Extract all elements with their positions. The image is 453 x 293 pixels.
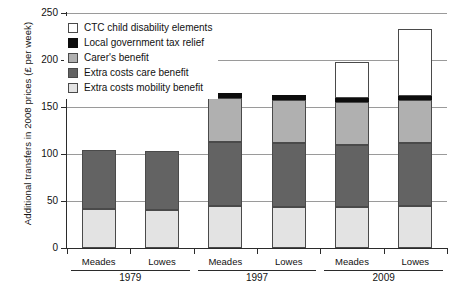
legend-item-taxrelief[interactable]: Local government tax relief bbox=[68, 35, 212, 50]
x-tick-mark bbox=[384, 248, 385, 254]
bar-segment-care[interactable] bbox=[335, 145, 369, 207]
gridline-250 bbox=[67, 13, 447, 14]
y-tick-mark-100 bbox=[61, 154, 66, 155]
bar-segment-carer[interactable] bbox=[208, 98, 242, 142]
bar-segment-mobility[interactable] bbox=[208, 206, 242, 248]
group-rule-2009 bbox=[324, 270, 443, 271]
group-rule-1997 bbox=[198, 270, 317, 271]
legend-label-carer: Carer's benefit bbox=[84, 52, 149, 63]
bar-segment-mobility[interactable] bbox=[82, 209, 116, 249]
x-tick-mark bbox=[67, 248, 68, 254]
legend-label-mobility: Extra costs mobility benefit bbox=[84, 82, 203, 93]
group-label-1979: 1979 bbox=[90, 272, 170, 283]
bar-segment-mobility[interactable] bbox=[272, 207, 306, 248]
x-axis-label-1997-lowes: Lowes bbox=[259, 256, 319, 267]
legend-item-care[interactable]: Extra costs care benefit bbox=[68, 65, 212, 80]
y-tick-label-200: 200 bbox=[28, 54, 58, 65]
bar-segment-mobility[interactable] bbox=[145, 210, 179, 249]
gridline-100 bbox=[67, 154, 447, 155]
y-tick-label-wrap-100: 100 bbox=[24, 148, 58, 160]
bar-segment-ctc[interactable] bbox=[398, 29, 432, 96]
bar-segment-mobility[interactable] bbox=[398, 206, 432, 248]
legend-swatch-taxrelief-icon bbox=[68, 38, 78, 48]
legend-item-carer[interactable]: Carer's benefit bbox=[68, 50, 212, 65]
legend-swatch-mobility-icon bbox=[68, 83, 78, 93]
x-axis-label-1997-meades: Meades bbox=[195, 256, 255, 267]
y-tick-label-100: 100 bbox=[28, 148, 58, 159]
gridline-150 bbox=[67, 107, 447, 108]
legend-swatch-carer-icon bbox=[68, 53, 78, 63]
bar-1979-meades[interactable] bbox=[82, 150, 116, 248]
bar-segment-carer[interactable] bbox=[272, 100, 306, 143]
bar-segment-mobility[interactable] bbox=[335, 207, 369, 248]
x-axis-label-1979-lowes: Lowes bbox=[132, 256, 192, 267]
y-tick-label-0: 0 bbox=[28, 242, 58, 253]
legend-label-care: Extra costs care benefit bbox=[84, 67, 189, 78]
x-axis-label-2009-lowes: Lowes bbox=[385, 256, 445, 267]
x-axis-label-1979-meades: Meades bbox=[69, 256, 129, 267]
y-tick-label-wrap-150: 150 bbox=[24, 101, 58, 113]
legend-swatch-care-icon bbox=[68, 68, 78, 78]
legend-item-ctc[interactable]: CTC child disability elements bbox=[68, 20, 212, 35]
x-tick-mark bbox=[194, 248, 195, 254]
y-tick-label-wrap-0: 0 bbox=[24, 242, 58, 254]
y-tick-label-250: 250 bbox=[28, 7, 58, 18]
bar-segment-carer[interactable] bbox=[335, 102, 369, 144]
y-tick-mark-50 bbox=[61, 201, 66, 202]
y-tick-label-150: 150 bbox=[28, 101, 58, 112]
bar-1997-meades[interactable] bbox=[208, 93, 242, 248]
y-tick-mark-0 bbox=[61, 248, 66, 249]
y-tick-label-wrap-50: 50 bbox=[24, 195, 58, 207]
group-label-1997: 1997 bbox=[217, 272, 297, 283]
gridline-50 bbox=[67, 201, 447, 202]
legend-item-mobility[interactable]: Extra costs mobility benefit bbox=[68, 80, 212, 95]
group-rule-1979 bbox=[71, 270, 190, 271]
x-tick-mark bbox=[130, 248, 131, 254]
bar-1979-lowes[interactable] bbox=[145, 151, 179, 248]
legend: CTC child disability elementsLocal gover… bbox=[64, 16, 218, 99]
legend-swatch-ctc-icon bbox=[68, 23, 78, 33]
bar-1997-lowes[interactable] bbox=[272, 95, 306, 248]
y-axis-title: Additional transfers in 2008 prices (£ p… bbox=[22, 4, 33, 244]
x-tick-mark bbox=[257, 248, 258, 254]
legend-label-ctc: CTC child disability elements bbox=[84, 22, 212, 33]
bar-segment-ctc[interactable] bbox=[335, 62, 369, 98]
y-tick-label-50: 50 bbox=[28, 195, 58, 206]
bar-segment-taxrelief[interactable] bbox=[335, 98, 369, 103]
bar-2009-lowes[interactable] bbox=[398, 29, 432, 248]
legend-label-taxrelief: Local government tax relief bbox=[84, 37, 204, 48]
x-axis-label-2009-meades: Meades bbox=[322, 256, 382, 267]
y-tick-mark-250 bbox=[61, 13, 66, 14]
y-tick-mark-150 bbox=[61, 107, 66, 108]
bar-2009-meades[interactable] bbox=[335, 62, 369, 248]
bar-segment-taxrelief[interactable] bbox=[398, 96, 432, 101]
bar-segment-carer[interactable] bbox=[398, 100, 432, 142]
bar-segment-care[interactable] bbox=[398, 143, 432, 206]
y-tick-label-wrap-200: 200 bbox=[24, 54, 58, 66]
x-tick-mark bbox=[447, 248, 448, 254]
x-tick-mark bbox=[320, 248, 321, 254]
group-label-2009: 2009 bbox=[344, 272, 424, 283]
bar-segment-care[interactable] bbox=[272, 143, 306, 207]
stacked-bar-chart: Additional transfers in 2008 prices (£ p… bbox=[0, 0, 453, 293]
y-tick-label-wrap-250: 250 bbox=[24, 7, 58, 19]
bar-segment-care[interactable] bbox=[208, 142, 242, 206]
bar-segment-taxrelief[interactable] bbox=[272, 95, 306, 100]
bar-segment-care[interactable] bbox=[145, 151, 179, 209]
bar-segment-care[interactable] bbox=[82, 150, 116, 208]
